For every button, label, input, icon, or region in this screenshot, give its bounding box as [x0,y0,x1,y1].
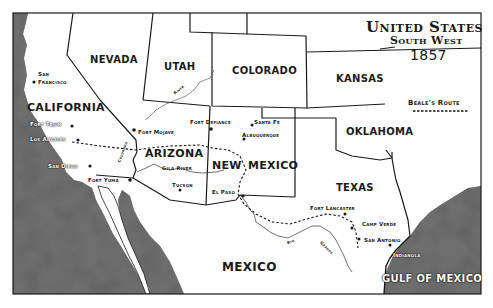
city-indianola: Indianola [393,253,421,259]
city-los-angeles: Los Angeles [30,137,66,143]
region-mexico: MEXICO [222,261,277,273]
state-colorado: COLORADO [232,66,297,76]
state-kansas: KANSAS [336,74,384,84]
map-subtitle: South West [390,35,462,46]
state-texas: TEXAS [336,183,374,193]
city-fort-defiance: Fort Defiance [190,120,231,126]
state-oklahoma: OKLAHOMA [346,127,413,137]
state-california: CALIFORNIA [27,102,105,113]
city-fort-yuma: Fort Yuma [88,178,119,184]
city-fort-tejon: Fort Tejon [30,122,61,128]
region-gulf-of-mexico: GULF OF MEXICO [382,274,482,284]
city-fort-lancaster: Fort Lancaster [310,206,355,212]
city-fort-mojave: Fort Mojave [138,130,174,136]
city-san-diego: San Diego [48,164,78,170]
city-san-antonio: San Antonio [364,238,401,244]
legend-label: Beale's Route [408,100,460,107]
map-year: 1857 [410,48,447,62]
city-camp-verde: Camp Verde [362,222,396,228]
map-title: United States [366,20,483,35]
state-mexico-territory: MEXICO [248,160,298,171]
city-el-paso: El Paso [212,190,235,196]
state-utah: UTAH [164,62,195,72]
state-new: NEW [212,160,242,171]
city-san-francisco: San [38,72,49,78]
city-tucson: Tucson [172,183,193,189]
city-albuquerque: Albuquerque [242,133,279,139]
city-san-francisco-2: Francisco [38,80,67,86]
river-label-gila: Gila River [162,166,192,171]
city-santa-fe: Santa Fe [254,120,280,126]
state-nevada: NEVADA [90,55,138,65]
state-arizona: ARIZONA [145,148,203,159]
